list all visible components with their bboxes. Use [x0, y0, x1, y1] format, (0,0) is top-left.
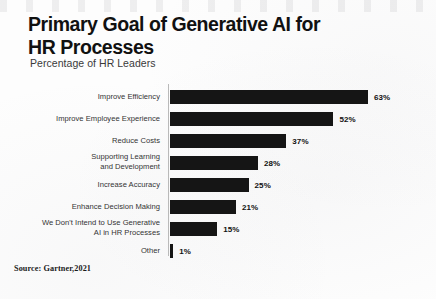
bar-category-label: Increase Accuracy: [8, 180, 160, 190]
bar: [170, 156, 258, 170]
chart-subtitle: Percentage of HR Leaders: [30, 57, 156, 69]
bar-category-label: Enhance Decision Making: [8, 202, 160, 212]
bar: [170, 178, 249, 192]
bar-category-label: Other: [8, 246, 160, 256]
bar-category-label: Reduce Costs: [8, 136, 160, 146]
bar-row: We Don't Intend to Use GenerativeAI in H…: [0, 218, 436, 240]
bar: [170, 112, 333, 126]
chart-sheet: Primary Goal of Generative AI for HR Pro…: [0, 0, 436, 299]
bar-row: Increase Accuracy25%: [0, 174, 436, 196]
chart-title-line-1: Primary Goal of Generative AI for: [28, 13, 320, 35]
bar: [170, 90, 368, 104]
bar: [170, 200, 236, 214]
bar-value-label: 1%: [179, 247, 191, 256]
bar-category-label: Improve Efficiency: [8, 92, 160, 102]
bar-row: Enhance Decision Making21%: [0, 196, 436, 218]
bar-value-label: 52%: [339, 115, 355, 124]
bar-value-label: 28%: [264, 159, 280, 168]
bar-value-label: 25%: [255, 181, 271, 190]
bar: [170, 244, 173, 258]
bar-value-label: 21%: [242, 203, 258, 212]
bar-row: Other1%: [0, 240, 436, 262]
bar: [170, 222, 217, 236]
bar-row: Supporting Learningand Development28%: [0, 152, 436, 174]
bar: [170, 134, 286, 148]
bar-category-label: Improve Employee Experience: [8, 114, 160, 124]
bar-row: Improve Efficiency63%: [0, 86, 436, 108]
bar-value-label: 63%: [374, 93, 390, 102]
source-credit: Source: Gartner,2021: [14, 264, 91, 273]
bar-value-label: 37%: [292, 137, 308, 146]
bar-category-label: Supporting Learningand Development: [8, 152, 160, 172]
bar-category-label: We Don't Intend to Use GenerativeAI in H…: [8, 218, 160, 238]
scan-artifact-top: [0, 0, 436, 12]
chart-title: Primary Goal of Generative AI for HR Pro…: [28, 13, 348, 59]
chart-title-line-2: HR Processes: [28, 36, 154, 58]
bar-value-label: 15%: [223, 225, 239, 234]
bar-row: Improve Employee Experience52%: [0, 108, 436, 130]
bar-chart-plot-area: Improve Efficiency63%Improve Employee Ex…: [0, 84, 436, 259]
bar-row: Reduce Costs37%: [0, 130, 436, 152]
